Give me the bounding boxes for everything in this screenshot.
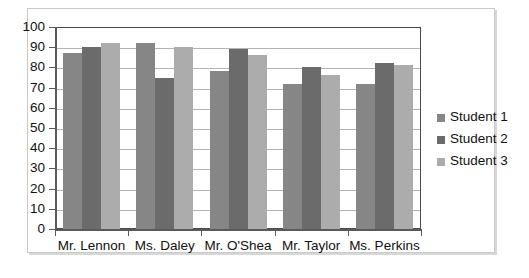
bar — [82, 47, 101, 229]
y-axis-tick-label: 40 — [0, 141, 45, 155]
x-axis-tick-label: Mr. O'Shea — [201, 239, 274, 253]
legend-label: Student 1 — [450, 110, 508, 124]
x-axis-tick — [201, 230, 202, 236]
chart-frame-shadow-bottom — [29, 253, 497, 255]
y-axis-tick-label: 100 — [0, 20, 45, 34]
legend-swatch-icon — [437, 114, 445, 122]
y-axis-tick — [49, 209, 56, 210]
x-axis-tick — [55, 230, 56, 236]
y-axis-tick-label: 20 — [0, 182, 45, 196]
y-axis-tick — [49, 47, 56, 48]
bar — [229, 49, 248, 229]
bar — [155, 78, 174, 230]
bar — [375, 63, 394, 229]
x-axis-line — [55, 229, 422, 231]
x-axis-tick-label: Mr. Lennon — [55, 239, 128, 253]
y-axis-tick — [49, 148, 56, 149]
bar — [302, 67, 321, 229]
y-axis-tick-label: 30 — [0, 161, 45, 175]
bar — [210, 71, 229, 229]
y-axis-tick — [49, 128, 56, 129]
legend-swatch-icon — [437, 136, 445, 144]
legend-label: Student 2 — [450, 132, 508, 146]
bar — [321, 75, 340, 229]
bar — [394, 65, 413, 229]
y-axis-tick-label: 50 — [0, 121, 45, 135]
y-axis-tick-label: 70 — [0, 81, 45, 95]
x-axis-tick-label: Ms. Daley — [128, 239, 201, 253]
bar-chart-figure: 1009080706050403020100 Mr. LennonMs. Dal… — [0, 0, 529, 278]
y-axis-tick — [49, 67, 56, 68]
x-axis-tick — [128, 230, 129, 236]
y-axis-tick-label: 90 — [0, 40, 45, 54]
bar — [174, 47, 193, 229]
bar — [248, 55, 267, 229]
bar — [101, 43, 120, 229]
y-axis-tick — [49, 88, 56, 89]
x-axis-tick-label: Mr. Taylor — [275, 239, 348, 253]
x-axis-tick — [275, 230, 276, 236]
y-axis-tick-label: 60 — [0, 101, 45, 115]
x-axis-tick — [421, 230, 422, 236]
bar — [356, 84, 375, 229]
legend-label: Student 3 — [450, 154, 508, 168]
y-axis-tick — [49, 108, 56, 109]
y-axis-tick — [49, 189, 56, 190]
bar — [63, 53, 82, 229]
y-axis-tick-label: 10 — [0, 202, 45, 216]
y-axis-tick — [49, 168, 56, 169]
bar — [283, 84, 302, 229]
legend-swatch-icon — [437, 158, 445, 166]
y-axis-tick-label: 80 — [0, 60, 45, 74]
y-axis-tick — [49, 27, 56, 28]
bar — [136, 43, 155, 229]
x-axis-tick-label: Ms. Perkins — [348, 239, 421, 253]
x-axis-tick — [348, 230, 349, 236]
y-axis-tick-label: 0 — [0, 222, 45, 236]
